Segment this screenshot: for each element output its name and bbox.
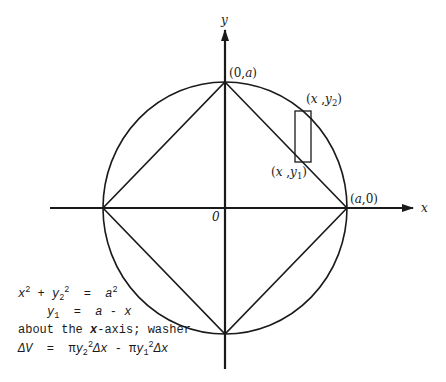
rotation-note: about the x-axis; washer	[18, 323, 191, 337]
y-axis-label: y	[220, 13, 228, 27]
washer-diagram: y x 0 (0,a) (a,0) (x ,y2) (x ,y1) x2 + y…	[0, 0, 446, 382]
point-label-top: (0,a)	[229, 66, 257, 80]
volume-element-equation: ΔV = πy22Δx - πy12Δx	[17, 340, 169, 358]
equation-line: y1 = a - x	[46, 305, 132, 321]
point-label-upper: (x ,y2)	[306, 92, 342, 108]
equation-circle: x2 + y22 = a2	[17, 285, 118, 303]
x-axis-label: x	[421, 201, 428, 215]
washer-element	[295, 111, 311, 162]
point-label-lower: (x ,y1)	[271, 165, 307, 181]
point-label-right: (a,0)	[350, 192, 378, 206]
origin-label: 0	[212, 210, 220, 224]
